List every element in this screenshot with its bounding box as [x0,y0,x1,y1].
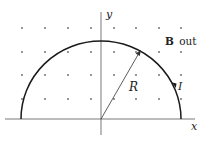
field-direction-label: out [179,35,197,47]
field-label: B out [165,35,197,47]
field-vector-label: B [165,35,174,47]
x-axis-label: x [191,120,198,133]
radius-arrowhead-icon [136,50,141,56]
y-axis-label: y [105,8,113,21]
current-label: I [177,80,183,93]
semicircle-diagram: y x R I B out [0,0,208,145]
radius-label: R [128,80,138,94]
